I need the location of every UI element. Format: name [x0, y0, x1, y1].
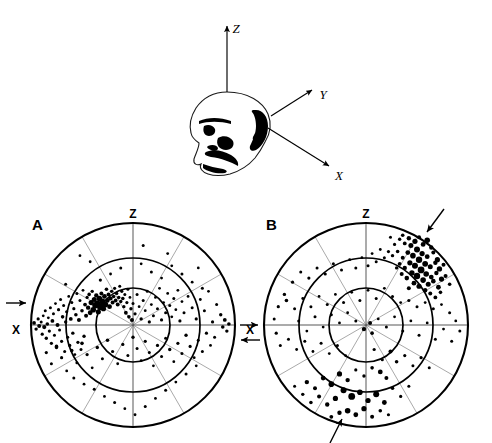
- x-axis-line: [268, 128, 329, 166]
- data-point: [176, 289, 179, 292]
- data-point: [91, 366, 94, 369]
- data-point: [138, 305, 141, 308]
- data-point: [114, 299, 118, 303]
- data-point: [96, 346, 99, 349]
- data-point: [309, 305, 312, 308]
- data-point: [201, 287, 204, 290]
- data-point: [405, 276, 410, 281]
- data-point: [362, 327, 366, 331]
- data-point: [371, 252, 374, 255]
- data-point: [444, 274, 448, 278]
- data-point: [150, 303, 153, 306]
- data-point: [107, 304, 112, 309]
- data-point: [312, 350, 315, 353]
- data-point: [399, 395, 402, 398]
- data-point: [293, 307, 296, 310]
- data-point: [199, 298, 202, 301]
- data-point: [391, 254, 394, 257]
- data-point: [328, 352, 331, 355]
- data-point: [421, 242, 426, 247]
- data-point: [50, 362, 53, 365]
- panel-b-pole-label: Z: [362, 207, 369, 221]
- data-point: [46, 322, 50, 326]
- data-point: [362, 374, 365, 377]
- data-point: [293, 385, 296, 388]
- data-point: [442, 263, 446, 267]
- data-point: [75, 292, 78, 295]
- data-point: [89, 260, 92, 263]
- data-point: [53, 334, 56, 337]
- data-point: [86, 353, 89, 356]
- data-point: [403, 354, 406, 357]
- data-point: [71, 331, 74, 334]
- data-point: [74, 313, 78, 317]
- data-point: [65, 310, 68, 313]
- radial-spoke-150: [366, 325, 417, 413]
- data-point: [432, 307, 435, 310]
- data-point: [207, 290, 210, 293]
- data-point: [68, 344, 71, 347]
- x-axis-label: X: [334, 168, 344, 183]
- data-point: [420, 251, 425, 256]
- data-point: [70, 301, 73, 304]
- data-point: [418, 334, 421, 337]
- data-point: [277, 305, 280, 308]
- data-point: [197, 266, 200, 269]
- data-point: [393, 315, 396, 318]
- data-point: [341, 387, 347, 393]
- data-point: [116, 362, 119, 365]
- data-point: [41, 333, 44, 336]
- data-point: [279, 344, 282, 347]
- data-point: [416, 257, 422, 263]
- data-point: [45, 351, 48, 354]
- data-point: [354, 266, 357, 269]
- data-point: [58, 329, 61, 332]
- data-point: [123, 407, 126, 410]
- data-point: [384, 376, 388, 380]
- head-illustration: [190, 92, 270, 176]
- data-point: [195, 317, 198, 320]
- data-point: [72, 377, 75, 380]
- data-point: [423, 271, 429, 277]
- data-point: [121, 343, 124, 346]
- data-point: [86, 296, 89, 299]
- data-point: [83, 303, 87, 307]
- data-point: [434, 271, 438, 275]
- data-point: [358, 299, 361, 302]
- data-point: [332, 262, 335, 265]
- head-axis-y: Y: [271, 87, 328, 116]
- data-point: [144, 340, 147, 343]
- data-point: [398, 238, 401, 241]
- data-point: [119, 266, 122, 269]
- head-axis-z: Z: [227, 21, 240, 92]
- radial-spoke-330: [315, 237, 366, 325]
- data-point: [54, 302, 57, 305]
- data-point: [62, 304, 65, 307]
- data-point: [61, 315, 65, 319]
- data-point: [191, 281, 194, 284]
- data-point: [93, 388, 96, 391]
- data-point: [324, 272, 327, 275]
- data-point: [79, 348, 82, 351]
- data-point: [221, 325, 225, 329]
- data-point: [87, 293, 91, 297]
- data-point: [340, 268, 343, 271]
- data-point: [350, 291, 353, 294]
- data-point: [123, 293, 126, 296]
- data-point: [400, 272, 404, 276]
- data-point: [407, 385, 410, 388]
- data-point: [60, 356, 63, 359]
- data-point: [313, 386, 317, 390]
- data-point: [130, 318, 134, 322]
- data-point: [154, 397, 157, 400]
- data-point: [75, 361, 78, 364]
- panel-a-scatter: [32, 244, 231, 416]
- data-point: [345, 408, 351, 414]
- data-point: [440, 303, 443, 306]
- data-point: [388, 350, 392, 354]
- data-point: [330, 313, 333, 316]
- data-point: [44, 309, 47, 312]
- data-point: [454, 320, 457, 323]
- data-point: [117, 296, 121, 300]
- data-point: [140, 359, 143, 362]
